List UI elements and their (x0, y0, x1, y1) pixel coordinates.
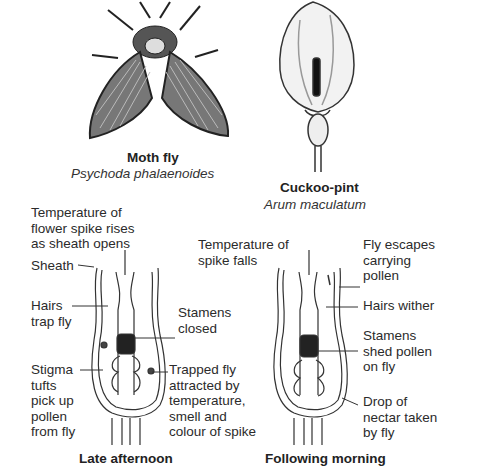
label-temperature-falls: Temperature of spike falls (198, 237, 289, 268)
label-sheath: Sheath (31, 258, 74, 274)
late-afternoon-spike-illustration (92, 250, 165, 445)
label-stamens-closed: Stamens closed (178, 305, 231, 336)
label-hairs-wither: Hairs wither (363, 298, 434, 314)
label-stamens-shed-pollen: Stamens shed pollen on fly (363, 328, 432, 375)
label-trapped-fly: Trapped fly attracted by temperature, sm… (169, 362, 256, 440)
label-stigma-tufts: Stigma tufts pick up pollen from fly (31, 362, 75, 440)
label-fly-escapes: Fly escapes carrying pollen (363, 237, 435, 284)
label-hairs-trap-fly: Hairs trap fly (31, 298, 72, 329)
caption-following-morning: Following morning (265, 451, 386, 466)
moth-fly-common-name: Moth fly (127, 150, 179, 165)
label-temperature-rises: Temperature of flower spike rises as she… (31, 205, 135, 252)
label-drop-of-nectar: Drop of nectar taken by fly (363, 394, 437, 441)
cuckoo-pint-common-name: Cuckoo-pint (280, 180, 359, 195)
cuckoo-pint-scientific-name: Arum maculatum (264, 197, 366, 212)
following-morning-spike-illustration (274, 250, 347, 445)
moth-fly-illustration (90, 2, 228, 138)
caption-late-afternoon: Late afternoon (79, 451, 173, 466)
moth-fly-scientific-name: Psychoda phalaenoides (71, 166, 214, 181)
cuckoo-pint-illustration (280, 2, 354, 172)
